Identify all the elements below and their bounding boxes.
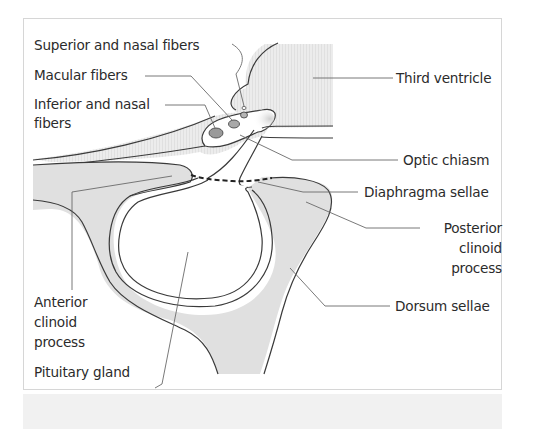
label-superior-nasal-fibers: Superior and nasal fibers — [34, 35, 199, 55]
label-optic-chiasm: Optic chiasm — [403, 150, 489, 170]
label-anterior-clinoid-2: clinoid — [34, 312, 77, 332]
superior-nasal-fibers-dot — [242, 106, 246, 109]
label-third-ventricle: Third ventricle — [396, 68, 491, 88]
label-macular-fibers: Macular fibers — [34, 65, 128, 85]
macular-fibers-bundle — [229, 120, 240, 128]
label-pituitary-gland: Pituitary gland — [34, 362, 130, 382]
superior-nasal-fibers-bundle — [241, 112, 248, 118]
label-posterior-clinoid-2: clinoid — [459, 238, 502, 258]
label-dorsum-sellae: Dorsum sellae — [395, 296, 490, 316]
leader-macular — [145, 76, 232, 120]
label-anterior-clinoid-1: Anterior — [34, 292, 87, 312]
label-posterior-clinoid-1: Posterior — [444, 218, 502, 238]
label-inferior-nasal-fibers-1: Inferior and nasal — [34, 94, 150, 114]
leader-dorsum-sellae — [290, 268, 390, 306]
label-anterior-clinoid-3: process — [34, 332, 85, 352]
infundibulum-line-right — [262, 137, 333, 138]
leader-optic-chiasm — [240, 135, 398, 160]
label-inferior-nasal-fibers-2: fibers — [34, 113, 71, 133]
label-diaphragma-sellae: Diaphragma sellae — [364, 182, 489, 202]
fossa-inner-outline — [119, 180, 262, 299]
inferior-nasal-fibers-bundle — [209, 128, 223, 138]
label-posterior-clinoid-3: process — [451, 258, 502, 278]
